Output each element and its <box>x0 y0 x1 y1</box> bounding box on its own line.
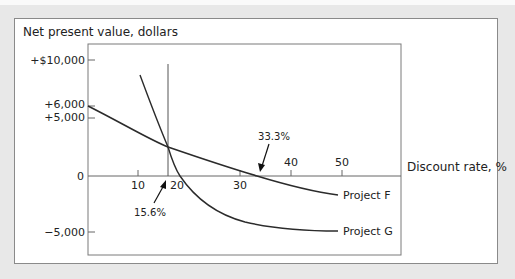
npv-chart: Net present value, dollars +$10,000 +6,0… <box>0 0 515 279</box>
y-tick-5000: +5,000 <box>44 111 85 124</box>
x-tick-40: 40 <box>284 156 298 169</box>
label-project-f: Project F <box>343 189 390 202</box>
annotation-15-6: 15.6% <box>134 207 166 218</box>
x-tick-20: 20 <box>170 179 184 192</box>
y-axis-title: Net present value, dollars <box>23 25 178 39</box>
y-tick-0: 0 <box>77 170 84 183</box>
x-axis-title: Discount rate, % <box>407 160 507 174</box>
series-project-g <box>140 75 338 231</box>
plot-area <box>88 44 401 255</box>
y-tick-neg5000: −5,000 <box>44 226 85 239</box>
arrow-33-3-head-icon <box>258 163 265 172</box>
y-tick-10000: +$10,000 <box>30 54 85 67</box>
label-project-g: Project G <box>343 225 393 238</box>
arrow-33-3-shaft <box>262 144 269 166</box>
arrow-15-6-head-icon <box>160 180 166 189</box>
y-ticks <box>88 60 95 232</box>
series-project-f <box>88 106 338 195</box>
x-tick-30: 30 <box>233 179 247 192</box>
annotation-33-3: 33.3% <box>258 131 290 142</box>
x-tick-50: 50 <box>335 156 349 169</box>
x-tick-10: 10 <box>131 179 145 192</box>
y-tick-6000: +6,000 <box>44 98 85 111</box>
